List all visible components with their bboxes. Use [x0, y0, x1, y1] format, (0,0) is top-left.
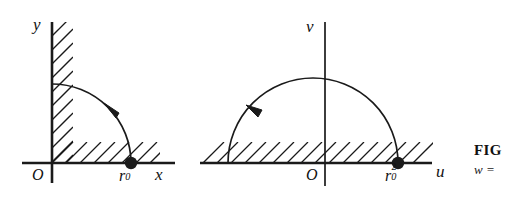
- caption-block: FIG w =: [474, 143, 520, 176]
- left-panel-z-plane: [22, 15, 175, 183]
- caption-title: FIG: [474, 143, 520, 159]
- right-v-axis-label: v: [306, 18, 314, 35]
- left-marked-point-label: r0: [119, 168, 125, 184]
- figure-root: y x O r0 v u O r20 FIG w =: [0, 0, 520, 201]
- left-marked-point-dot: [125, 157, 137, 169]
- right-panel-w-plane: [200, 22, 434, 186]
- left-origin-label: O: [32, 167, 44, 183]
- right-u-axis-label: u: [436, 163, 445, 180]
- left-y-axis-label: y: [33, 16, 41, 33]
- left-x-axis-hatching: [52, 142, 171, 163]
- right-marked-point-label: r20: [385, 168, 391, 184]
- right-point-subscript: 0: [391, 172, 396, 182]
- caption-formula: w =: [474, 163, 520, 177]
- left-point-subscript: 0: [125, 172, 130, 182]
- right-arc-arrowhead: [246, 105, 262, 117]
- left-x-axis-label: x: [155, 166, 163, 183]
- right-origin-label: O: [306, 167, 318, 183]
- left-arc-arrowhead: [104, 103, 119, 118]
